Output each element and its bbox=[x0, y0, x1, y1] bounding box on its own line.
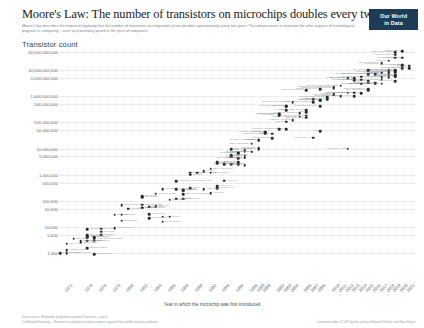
gridline bbox=[60, 253, 416, 254]
data-point[interactable] bbox=[305, 116, 308, 119]
data-point[interactable] bbox=[120, 214, 123, 217]
data-point-label: Core i7 Haswell bbox=[334, 91, 352, 94]
footer-link[interactable]: OurWorldinData.org – Research and data t… bbox=[22, 320, 159, 324]
x-tick-label: 1984 bbox=[152, 283, 162, 293]
data-point[interactable] bbox=[59, 252, 62, 255]
data-point[interactable] bbox=[346, 147, 349, 150]
data-point[interactable] bbox=[394, 75, 397, 78]
data-point[interactable] bbox=[202, 170, 205, 173]
y-tick-label: 5,000,000 bbox=[39, 154, 58, 159]
data-point[interactable] bbox=[175, 180, 178, 183]
data-point[interactable] bbox=[175, 188, 178, 191]
data-point-label: Bellmac-32 bbox=[145, 195, 158, 198]
data-point[interactable] bbox=[161, 220, 164, 223]
data-point-label: Transmeta Crusoe bbox=[242, 132, 263, 135]
data-point[interactable] bbox=[148, 213, 151, 216]
data-point-label: Nvidia GA100 bbox=[384, 50, 399, 53]
data-point-label: NEC uCOM-4 bbox=[83, 241, 98, 244]
data-point[interactable] bbox=[305, 109, 308, 112]
data-point[interactable] bbox=[387, 59, 390, 62]
data-point[interactable] bbox=[168, 198, 171, 201]
data-point[interactable] bbox=[148, 217, 151, 220]
data-point[interactable] bbox=[120, 204, 123, 207]
data-point[interactable] bbox=[285, 128, 288, 131]
data-point[interactable] bbox=[113, 227, 116, 230]
x-tick-label: 1990 bbox=[193, 283, 203, 293]
owid-logo-line2: in Data bbox=[384, 20, 403, 26]
gridline bbox=[60, 52, 416, 53]
data-point[interactable] bbox=[360, 76, 363, 79]
data-point[interactable] bbox=[72, 237, 75, 240]
data-point[interactable] bbox=[250, 151, 253, 154]
data-point[interactable] bbox=[182, 189, 185, 192]
data-point[interactable] bbox=[209, 171, 212, 174]
data-point[interactable] bbox=[148, 205, 151, 208]
data-point-label: ARM 2 bbox=[172, 215, 180, 218]
data-point[interactable] bbox=[319, 130, 322, 133]
data-point[interactable] bbox=[401, 56, 404, 59]
data-point[interactable] bbox=[79, 241, 82, 244]
data-point[interactable] bbox=[86, 233, 89, 236]
data-point-label: Itanium 2 bbox=[273, 105, 283, 108]
data-point[interactable] bbox=[182, 193, 185, 196]
data-point-label: DEC WRL MultiTitan bbox=[186, 193, 209, 196]
data-point[interactable] bbox=[353, 91, 356, 94]
data-point[interactable] bbox=[66, 243, 69, 246]
data-point[interactable] bbox=[216, 162, 219, 165]
data-point[interactable] bbox=[141, 195, 144, 198]
data-point[interactable] bbox=[257, 139, 260, 142]
data-point[interactable] bbox=[257, 147, 260, 150]
data-point[interactable] bbox=[189, 173, 192, 176]
data-point-label: Intel 8051 bbox=[131, 207, 142, 210]
data-point[interactable] bbox=[401, 50, 404, 53]
gridline bbox=[60, 183, 416, 184]
data-point[interactable] bbox=[326, 98, 329, 101]
data-point[interactable] bbox=[380, 83, 383, 86]
data-point[interactable] bbox=[86, 228, 89, 231]
data-point-label: Garrett AiResearch CADC bbox=[62, 252, 91, 255]
data-point[interactable] bbox=[223, 180, 226, 183]
data-point[interactable] bbox=[244, 156, 247, 159]
data-point[interactable] bbox=[339, 95, 342, 98]
data-point[interactable] bbox=[100, 233, 103, 236]
data-point[interactable] bbox=[141, 204, 144, 207]
data-point[interactable] bbox=[285, 109, 288, 112]
data-point-label: Ampere Altra bbox=[385, 56, 399, 59]
data-point[interactable] bbox=[264, 133, 267, 136]
data-point[interactable] bbox=[271, 137, 274, 140]
data-point[interactable] bbox=[408, 64, 411, 67]
y-tick-label: 10,000 bbox=[45, 224, 58, 229]
data-point[interactable] bbox=[360, 78, 363, 81]
owid-logo[interactable]: Our World in Data bbox=[369, 9, 418, 30]
data-point[interactable] bbox=[285, 105, 288, 108]
data-point[interactable] bbox=[168, 215, 171, 218]
data-point[interactable] bbox=[367, 89, 370, 92]
data-point[interactable] bbox=[312, 101, 315, 104]
data-point[interactable] bbox=[333, 93, 336, 96]
data-point[interactable] bbox=[319, 105, 322, 108]
data-point[interactable] bbox=[360, 92, 363, 95]
data-point[interactable] bbox=[408, 67, 411, 70]
data-point[interactable] bbox=[237, 161, 240, 164]
y-tick-label: 1,000,000 bbox=[39, 172, 58, 177]
x-tick-label: 1982 bbox=[139, 283, 149, 293]
data-point[interactable] bbox=[127, 207, 130, 210]
data-point[interactable] bbox=[120, 219, 123, 222]
y-tick-label: 10,000,000,000 bbox=[28, 68, 58, 73]
data-point[interactable] bbox=[202, 188, 205, 191]
data-point[interactable] bbox=[209, 167, 212, 170]
data-point-label: ARM 250 bbox=[213, 192, 223, 195]
data-point[interactable] bbox=[209, 192, 212, 195]
data-point[interactable] bbox=[353, 95, 356, 98]
data-point[interactable] bbox=[271, 132, 274, 135]
data-point[interactable] bbox=[394, 80, 397, 83]
data-point[interactable] bbox=[278, 128, 281, 131]
data-point[interactable] bbox=[175, 197, 178, 200]
data-point[interactable] bbox=[113, 214, 116, 217]
data-point-label: TI Explorer Lisp machine chip bbox=[179, 180, 212, 183]
data-point-label: POWER7 bbox=[321, 93, 332, 96]
data-point[interactable] bbox=[161, 188, 164, 191]
data-point[interactable] bbox=[394, 70, 397, 73]
data-point[interactable] bbox=[312, 136, 315, 139]
data-point[interactable] bbox=[93, 253, 96, 256]
